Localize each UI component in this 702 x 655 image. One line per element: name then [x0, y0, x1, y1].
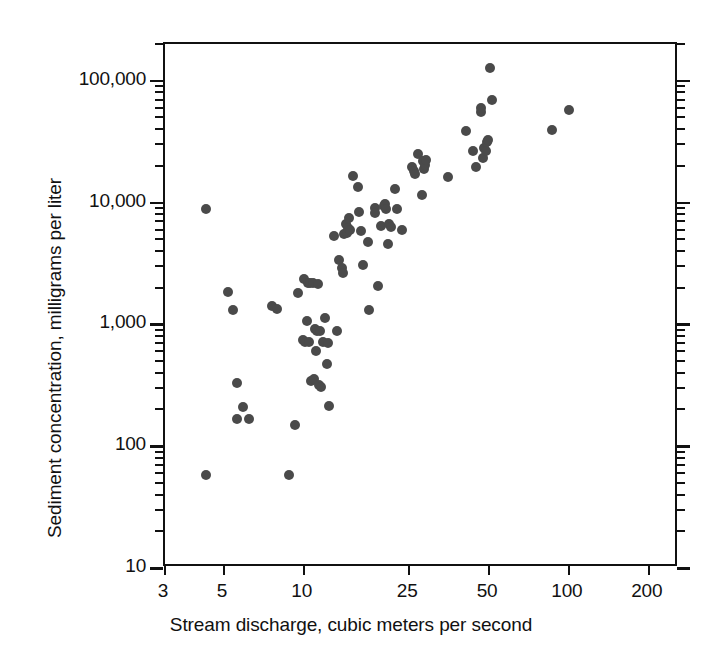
data-point — [232, 378, 242, 388]
y-axis-minor-tick — [155, 494, 163, 496]
y-axis-minor-tick — [155, 464, 163, 466]
y-axis-title: Sediment concentration, milligrams per l… — [44, 178, 66, 538]
y-axis-minor-tick — [677, 329, 685, 331]
x-axis-major-tick — [303, 564, 305, 575]
x-axis-major-tick — [568, 564, 570, 575]
y-axis-minor-tick — [155, 509, 163, 511]
data-point — [485, 63, 495, 73]
y-axis-minor-tick — [677, 250, 685, 252]
y-axis-minor-tick — [155, 408, 163, 410]
data-point — [443, 172, 453, 182]
y-axis-minor-tick — [677, 530, 685, 532]
x-axis-major-tick — [164, 564, 166, 575]
y-axis-minor-tick — [677, 451, 685, 453]
y-axis-minor-tick — [677, 99, 685, 101]
x-tick-label: 25 — [397, 580, 418, 602]
data-point — [272, 304, 282, 314]
x-tick-label: 3 — [158, 580, 168, 602]
y-axis-major-tick — [150, 567, 163, 570]
y-axis-minor-tick — [677, 265, 685, 267]
data-point — [304, 337, 314, 347]
y-axis-major-tick — [150, 445, 163, 448]
data-point — [390, 184, 400, 194]
y-axis-minor-tick — [155, 128, 163, 130]
data-point — [320, 313, 330, 323]
y-axis-minor-tick — [155, 207, 163, 209]
y-axis-minor-tick — [677, 220, 685, 222]
data-point — [338, 268, 348, 278]
y-axis-minor-tick — [677, 229, 685, 231]
y-axis-minor-tick — [155, 143, 163, 145]
y-axis-minor-tick — [155, 329, 163, 331]
y-axis-minor-tick — [677, 238, 685, 240]
y-axis-minor-tick — [155, 85, 163, 87]
y-axis-minor-tick — [677, 387, 685, 389]
x-tick-label: 100 — [551, 580, 582, 602]
data-point — [311, 346, 321, 356]
y-axis-minor-tick — [677, 372, 685, 374]
data-point — [397, 225, 407, 235]
y-axis-minor-tick — [677, 457, 685, 459]
x-axis-major-tick — [223, 564, 225, 575]
data-point — [468, 146, 478, 156]
y-axis-minor-tick — [155, 287, 163, 289]
y-axis-major-tick — [677, 202, 690, 205]
data-point — [386, 222, 396, 232]
data-point — [487, 95, 497, 105]
y-axis-major-tick — [677, 80, 690, 83]
y-axis-minor-tick — [677, 408, 685, 410]
data-point — [228, 305, 238, 315]
data-point — [421, 155, 431, 165]
x-axis-major-tick — [488, 564, 490, 575]
y-axis-minor-tick — [155, 116, 163, 118]
y-axis-minor-tick — [677, 494, 685, 496]
y-axis-minor-tick — [155, 99, 163, 101]
y-axis-minor-tick — [155, 107, 163, 109]
data-point — [201, 470, 211, 480]
y-axis-minor-tick — [677, 213, 685, 215]
data-point — [383, 239, 393, 249]
y-axis-minor-tick — [677, 472, 685, 474]
data-point — [238, 402, 248, 412]
data-point — [323, 338, 333, 348]
y-axis-major-tick — [677, 323, 690, 326]
y-tick-label: 100,000 — [51, 68, 146, 90]
y-axis-minor-tick — [677, 509, 685, 511]
data-point — [461, 126, 471, 136]
y-axis-minor-tick — [155, 220, 163, 222]
data-point — [201, 204, 211, 214]
data-point — [354, 207, 364, 217]
y-axis-minor-tick — [677, 107, 685, 109]
data-point — [353, 182, 363, 192]
y-axis-major-tick — [150, 202, 163, 205]
data-point — [232, 414, 242, 424]
y-axis-minor-tick — [677, 128, 685, 130]
data-point — [356, 226, 366, 236]
y-axis-minor-tick — [677, 85, 685, 87]
data-point — [329, 231, 339, 241]
y-axis-minor-tick — [155, 530, 163, 532]
y-axis-minor-tick — [155, 350, 163, 352]
data-point — [344, 213, 354, 223]
y-axis-minor-tick — [155, 335, 163, 337]
y-axis-minor-tick — [677, 287, 685, 289]
y-axis-minor-tick — [677, 143, 685, 145]
y-axis-minor-tick — [155, 482, 163, 484]
y-axis-minor-tick — [677, 342, 685, 344]
y-axis-minor-tick — [155, 342, 163, 344]
x-tick-label: 200 — [631, 580, 662, 602]
data-point — [483, 135, 493, 145]
data-point — [373, 281, 383, 291]
x-axis-major-tick — [408, 564, 410, 575]
data-point — [302, 316, 312, 326]
data-point — [410, 169, 420, 179]
plot-frame — [163, 42, 677, 566]
data-point — [313, 279, 323, 289]
y-axis-minor-tick — [155, 165, 163, 167]
y-axis-minor-tick — [155, 372, 163, 374]
data-point — [471, 162, 481, 172]
data-point — [358, 260, 368, 270]
y-axis-major-tick — [150, 80, 163, 83]
data-point — [324, 401, 334, 411]
data-point — [348, 171, 358, 181]
